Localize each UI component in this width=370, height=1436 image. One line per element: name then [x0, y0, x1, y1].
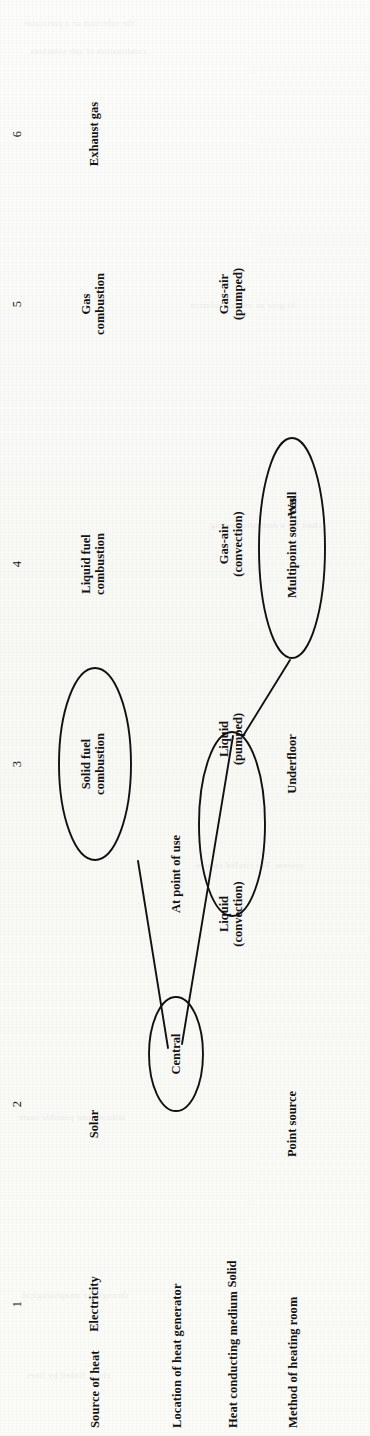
column-number-2: 2	[10, 1084, 25, 1124]
cell-source-of-heat-3: Solid fuel combustion	[80, 694, 107, 834]
cell-source-of-heat-6: Exhaust gas	[88, 54, 102, 214]
morphological-chart: 1 2 3 4 5 6 Source of heat Location of h…	[0, 0, 370, 1436]
morphological-chart-rotated: 1 2 3 4 5 6 Source of heat Location of h…	[0, 0, 370, 1436]
column-number-6: 6	[10, 114, 25, 154]
column-number-5: 5	[10, 284, 25, 324]
cell-source-of-heat-1: Electricity	[88, 1224, 102, 1384]
cell-heat-conducting-medium-4: Gas-air (convection)	[218, 474, 245, 614]
cell-location-of-heat-generator-2: At point of use	[170, 784, 184, 964]
column-number-1: 1	[10, 1284, 25, 1324]
column-number-4: 4	[10, 544, 25, 584]
cell-heat-conducting-medium-3: Liquid (pumped)	[218, 674, 245, 804]
cell-location-of-heat-generator-1: Central	[170, 994, 184, 1114]
cell-heat-conducting-medium-2: Liquid (convection)	[218, 844, 245, 984]
solution-path-graphics	[0, 0, 370, 1436]
cell-heat-conducting-medium-5: Gas-air (pumped)	[218, 224, 245, 364]
row-label-method-of-heating-room: Method of heating room	[286, 1297, 301, 1428]
cell-method-of-heating-room-1: Point source	[286, 1044, 300, 1204]
cell-source-of-heat-5: Gas combustion	[80, 234, 107, 374]
cell-source-of-heat-4: Liquid fuel combustion	[80, 494, 107, 634]
link-liquid-pumped-to-multipoint	[243, 660, 290, 736]
cell-method-of-heating-room-4: Wall	[286, 444, 300, 564]
cell-heat-conducting-medium-1: Solid	[226, 1214, 240, 1334]
column-number-3: 3	[10, 744, 25, 784]
cell-source-of-heat-2: Solar	[88, 1064, 102, 1184]
row-label-location-of-heat-generator: Location of heat generator	[170, 1283, 185, 1428]
link-central-to-solid-fuel	[138, 861, 168, 1048]
cell-method-of-heating-room-3: Underfloor	[286, 694, 300, 834]
